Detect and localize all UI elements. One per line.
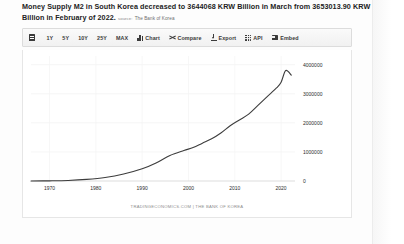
- chart-attribution: TRADINGECONOMICS.COM | THE BANK OF KOREA: [23, 204, 351, 209]
- x-axis-tick-label: 1980: [90, 185, 101, 191]
- toolbar-chart-button[interactable]: Chart: [133, 35, 165, 41]
- toolbar-label: Compare: [177, 35, 201, 41]
- toolbar-label: 5Y: [62, 35, 69, 41]
- toolbar-range-25y[interactable]: 25Y: [93, 35, 112, 41]
- headline-text: Money Supply M2 in South Korea decreased…: [22, 2, 370, 22]
- toolbar-range-max[interactable]: MAX: [111, 35, 132, 41]
- x-axis-tick-label: 2010: [229, 185, 240, 191]
- money-supply-line-chart: 0100000020000003000000400000019701980199…: [23, 50, 353, 218]
- toolbar-range-10y[interactable]: 10Y: [74, 35, 93, 41]
- x-axis-tick-label: 1990: [137, 185, 148, 191]
- x-axis-tick-label: 2020: [276, 185, 287, 191]
- chart-toolbar[interactable]: 1Y 5Y 10Y 25Y MAX Chart Compare Export A: [22, 28, 352, 47]
- chart-panel[interactable]: 0100000020000003000000400000019701980199…: [22, 50, 352, 218]
- grid-icon: [245, 35, 251, 41]
- toolbar-label: 25Y: [97, 35, 107, 41]
- embed-icon: [272, 35, 279, 41]
- toolbar-label: MAX: [116, 35, 128, 41]
- toolbar-embed-button[interactable]: Embed: [267, 35, 303, 41]
- toolbar-label: Embed: [280, 35, 299, 41]
- download-icon: [211, 34, 217, 41]
- y-axis-tick-label: 1000000: [303, 149, 323, 155]
- y-axis-tick-label: 4000000: [303, 62, 323, 68]
- headline: Money Supply M2 in South Korea decreased…: [22, 2, 374, 24]
- toolbar-label: Export: [219, 35, 237, 41]
- toolbar-range-5y[interactable]: 5Y: [58, 35, 74, 41]
- y-axis-tick-label: 2000000: [303, 120, 323, 126]
- toolbar-export-button[interactable]: Export: [206, 34, 241, 41]
- toolbar-api-button[interactable]: API: [241, 35, 267, 41]
- source-name: The Bank of Korea: [135, 16, 175, 21]
- toolbar-label: 1Y: [47, 35, 54, 41]
- screenshot-page: Money Supply M2 in South Korea decreased…: [0, 0, 404, 244]
- toolbar-calendar-button[interactable]: [28, 34, 42, 41]
- bar-chart-icon: [137, 35, 143, 41]
- toolbar-label: Chart: [145, 35, 160, 41]
- toolbar-label: 10Y: [78, 35, 88, 41]
- series-line: [31, 70, 291, 181]
- x-axis-tick-label: 1970: [44, 185, 55, 191]
- plot-area: 0100000020000003000000400000019701980199…: [23, 50, 353, 218]
- toolbar-range-1y[interactable]: 1Y: [42, 35, 58, 41]
- toolbar-compare-button[interactable]: Compare: [164, 35, 206, 41]
- calendar-icon: [29, 34, 35, 41]
- y-axis-tick-label: 0: [303, 178, 306, 184]
- compare-icon: [169, 35, 176, 41]
- page-margin: [373, 0, 404, 244]
- toolbar-label: API: [253, 35, 262, 41]
- x-axis-tick-label: 2000: [183, 185, 194, 191]
- y-axis-tick-label: 3000000: [303, 91, 323, 97]
- source-label: source:: [118, 16, 133, 21]
